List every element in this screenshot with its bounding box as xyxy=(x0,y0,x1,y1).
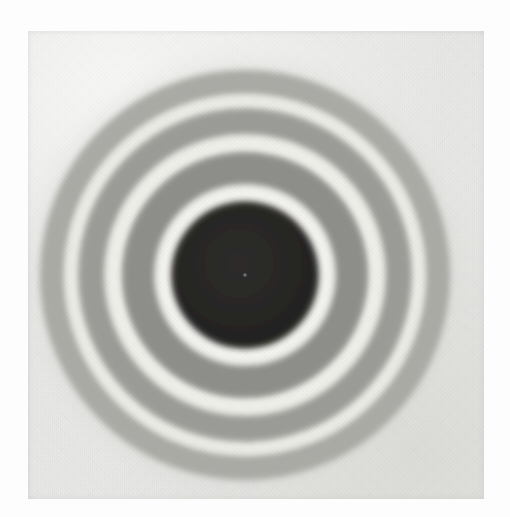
ring-pattern-svg xyxy=(28,31,484,499)
page-root xyxy=(0,0,510,517)
diffraction-photograph xyxy=(28,31,484,499)
emulsion-speckles xyxy=(243,273,246,276)
concentric-ring-pattern xyxy=(28,31,484,499)
